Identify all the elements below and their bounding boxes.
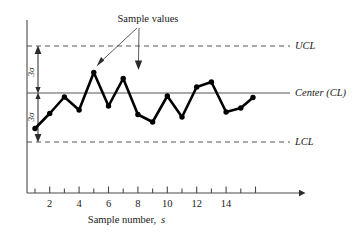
control-chart-canvas: 2 4 6 8 10 12 14 Sample number, s 3σ 3σ [0, 0, 363, 232]
sigma-lower-arrowhead-down [35, 134, 42, 143]
control-chart: 2 4 6 8 10 12 14 Sample number, s 3σ 3σ [0, 0, 363, 232]
x-axis-ticks [35, 187, 256, 194]
x-axis-title: Sample number, s [88, 214, 165, 225]
x-tick-label: 6 [106, 198, 111, 209]
data-point [135, 112, 140, 117]
data-point [91, 70, 96, 75]
leader-arrowhead-left [97, 57, 105, 67]
series-polyline [35, 73, 253, 129]
sample-values-series [32, 70, 255, 131]
data-point [209, 79, 214, 84]
x-tick-label: 2 [47, 198, 52, 209]
sample-values-annotation: Sample values [97, 13, 179, 70]
data-point [106, 103, 111, 108]
data-point [121, 76, 126, 81]
x-tick-label: 10 [162, 198, 173, 209]
sigma-upper-label: 3σ [26, 67, 36, 78]
data-point [250, 95, 255, 100]
x-tick-label: 14 [221, 198, 232, 209]
data-point [32, 126, 37, 131]
x-tick-label: 4 [76, 198, 82, 209]
x-tick-label: 8 [135, 198, 140, 209]
data-point [47, 111, 52, 116]
leader-line-left [101, 28, 138, 62]
data-point [150, 119, 155, 124]
data-point [179, 114, 184, 119]
sigma-lower-label: 3σ [26, 112, 36, 123]
data-point [62, 94, 67, 99]
x-axis-tick-labels: 2 4 6 8 10 12 14 [47, 198, 232, 209]
sigma-upper-arrowhead-up [35, 46, 42, 55]
reference-lines [27, 46, 290, 142]
data-point [194, 84, 199, 89]
x-tick-label: 12 [191, 198, 202, 209]
x-axis-title-variable: s [161, 214, 165, 225]
leader-arrowhead-right [135, 61, 142, 71]
leader-line-right [139, 28, 140, 62]
data-point [165, 93, 170, 98]
data-point [238, 105, 243, 110]
x-axis-title-text: Sample number, [88, 214, 156, 225]
sample-values-annotation-text: Sample values [118, 13, 179, 24]
data-point [76, 107, 81, 112]
ucl-label: UCL [295, 40, 316, 51]
limit-labels: UCL Center (CL) LCL [294, 40, 347, 147]
data-point [223, 109, 228, 114]
center-label: Center (CL) [295, 87, 347, 99]
lcl-label: LCL [294, 136, 314, 147]
